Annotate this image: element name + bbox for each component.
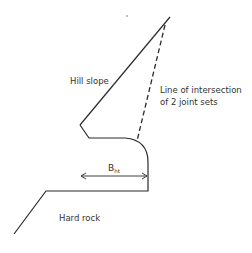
diagram-canvas <box>0 0 252 253</box>
joint-intersection-dashed-line <box>137 25 165 141</box>
intersection-label-line2: of 2 joint sets <box>160 97 218 107</box>
hill-slope-line <box>80 17 170 125</box>
intersection-label-line1: Line of intersection <box>160 85 242 95</box>
stray-dot <box>126 15 128 17</box>
width-subscript: ht <box>114 168 120 174</box>
hill-slope-label: Hill slope <box>70 76 109 86</box>
hard-rock-label: Hard rock <box>59 213 100 223</box>
width-label: Bht <box>108 163 120 176</box>
